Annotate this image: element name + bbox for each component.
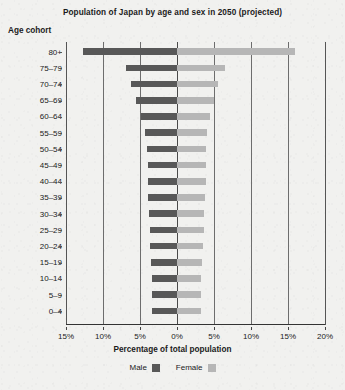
population-pyramid-chart: Population of Japan by age and sex in 20… [0, 0, 345, 390]
x-tick-mark [103, 327, 104, 330]
bar-row [66, 141, 325, 157]
y-tick-mark [59, 133, 62, 134]
y-tick-mark [59, 117, 62, 118]
x-tick-label: 15% [58, 332, 74, 341]
bar-male [131, 81, 177, 88]
y-tick-mark [59, 149, 62, 150]
y-tick-label: 50–54 [4, 144, 62, 153]
bar-row [66, 109, 325, 125]
y-tick-mark [59, 52, 62, 53]
bar-male [152, 275, 177, 282]
bar-female [177, 81, 218, 88]
bar-female [177, 291, 201, 298]
bar-row [66, 125, 325, 141]
x-tick-mark [140, 327, 141, 330]
x-tick-mark [288, 327, 289, 330]
bar-female [177, 146, 206, 153]
y-tick-label: 20–24 [4, 241, 62, 250]
bar-female [177, 129, 207, 136]
bar-row [66, 93, 325, 109]
x-tick-mark [214, 327, 215, 330]
x-tick-mark [251, 327, 252, 330]
y-tick-label: 30–34 [4, 209, 62, 218]
bar-row [66, 157, 325, 173]
y-axis-title: Age cohort [8, 26, 51, 35]
bar-male [145, 129, 177, 136]
y-tick-mark [59, 214, 62, 215]
bar-male [149, 210, 177, 217]
x-axis-tick-labels: 15%10%5%0%5%10%15%20% [0, 327, 345, 341]
plot-area [66, 42, 325, 325]
x-tick-label: 10% [243, 332, 259, 341]
bar-female [177, 113, 210, 120]
bar-row [66, 271, 325, 287]
gridline [325, 42, 326, 325]
y-tick-mark [59, 68, 62, 69]
bar-female [177, 308, 201, 315]
bar-female [177, 275, 201, 282]
legend-item-male: Male [129, 363, 159, 372]
bar-row [66, 174, 325, 190]
y-tick-label: 80+ [4, 47, 62, 56]
bar-female [177, 259, 202, 266]
y-tick-label: 25–29 [4, 225, 62, 234]
bar-female [177, 65, 225, 72]
bar-row [66, 206, 325, 222]
x-tick-label: 5% [134, 332, 146, 341]
chart-title: Population of Japan by age and sex in 20… [0, 8, 345, 17]
bar-female [177, 48, 295, 55]
x-tick-label: 5% [208, 332, 220, 341]
bar-row [66, 303, 325, 319]
legend-swatch-male [152, 364, 160, 372]
y-tick-label: 60–64 [4, 112, 62, 121]
y-tick-mark [59, 165, 62, 166]
bar-row [66, 60, 325, 76]
y-tick-label: 5–9 [4, 290, 62, 299]
legend-label-male: Male [129, 363, 146, 372]
bar-female [177, 210, 204, 217]
chart-legend: Male Female [0, 363, 345, 372]
y-tick-label: 40–44 [4, 177, 62, 186]
x-axis-title: Percentage of total population [0, 345, 345, 354]
bar-male [150, 243, 177, 250]
bar-male [147, 146, 177, 153]
y-tick-mark [59, 246, 62, 247]
y-tick-label: 15–19 [4, 258, 62, 267]
bar-female [177, 227, 204, 234]
y-tick-label: 70–74 [4, 79, 62, 88]
y-tick-label: 45–49 [4, 160, 62, 169]
legend-label-female: Female [176, 363, 203, 372]
x-tick-label: 20% [317, 332, 333, 341]
bar-female [177, 243, 203, 250]
y-tick-label: 0–4 [4, 306, 62, 315]
bar-row [66, 287, 325, 303]
bar-female [177, 194, 205, 201]
y-tick-label: 35–39 [4, 193, 62, 202]
legend-swatch-female [208, 364, 216, 372]
bar-male [150, 227, 177, 234]
x-axis-line [66, 324, 325, 325]
y-tick-mark [59, 263, 62, 264]
y-tick-mark [59, 295, 62, 296]
y-tick-label: 10–14 [4, 274, 62, 283]
y-tick-mark [59, 230, 62, 231]
y-tick-mark [59, 84, 62, 85]
x-tick-label: 10% [95, 332, 111, 341]
bar-male [136, 97, 177, 104]
bar-male [148, 194, 177, 201]
bar-female [177, 162, 206, 169]
bar-row [66, 255, 325, 271]
bar-male [126, 65, 177, 72]
y-tick-mark [59, 311, 62, 312]
bar-male [141, 113, 177, 120]
x-tick-label: 0% [171, 332, 183, 341]
x-tick-mark [177, 327, 178, 330]
y-tick-mark [59, 101, 62, 102]
bar-male [83, 48, 177, 55]
bar-male [151, 259, 177, 266]
y-tick-mark [59, 279, 62, 280]
bar-female [177, 178, 206, 185]
bar-row [66, 44, 325, 60]
y-tick-label: 65–69 [4, 96, 62, 105]
bar-female [177, 97, 214, 104]
